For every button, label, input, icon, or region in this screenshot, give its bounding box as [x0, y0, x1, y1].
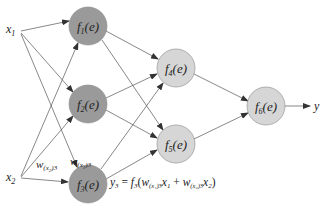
svg-text:f6(e): f6(e): [255, 99, 277, 116]
edge-f2-f4: [106, 74, 157, 98]
svg-text:f4(e): f4(e): [165, 61, 187, 78]
svg-text:f2(e): f2(e): [77, 97, 99, 114]
svg-text:f1(e): f1(e): [77, 19, 99, 36]
edge-f1-f4: [106, 31, 158, 59]
weight-x1-3-label: w(x1)3: [70, 155, 92, 170]
edge-f1-f5: [102, 40, 163, 130]
edge-f2-f5: [106, 110, 157, 138]
neural-network-diagram: f1(e) f2(e) f3(e) f4(e) f5(e) f6(e) x1: [0, 0, 332, 210]
weight-x2-3-label: w(x2)3: [36, 158, 58, 173]
edge-x2-f3: [21, 178, 68, 182]
node-f2: f2(e): [69, 85, 107, 123]
equation-y3: y3 = f3(w(x₁)3x1 + w(x₂)3x2): [109, 176, 216, 190]
edge-x1-f2: [21, 33, 73, 92]
svg-text:f3(e): f3(e): [77, 177, 99, 194]
node-f1: f1(e): [69, 7, 107, 45]
input-x1-label: x1: [5, 22, 15, 38]
input-x2-label: x2: [5, 170, 15, 186]
node-f3: f3(e): [69, 165, 107, 203]
output-y-label: y: [313, 99, 320, 113]
edge-x1-f1: [21, 21, 69, 31]
svg-text:f5(e): f5(e): [165, 137, 187, 154]
edge-f3-f5: [106, 150, 157, 179]
edge-f5-f6: [194, 113, 248, 139]
edge-x1-f3: [21, 34, 77, 167]
node-f6: f6(e): [247, 87, 285, 125]
node-f5: f5(e): [157, 125, 195, 163]
edge-f4-f6: [194, 74, 248, 101]
node-f4: f4(e): [157, 49, 195, 87]
